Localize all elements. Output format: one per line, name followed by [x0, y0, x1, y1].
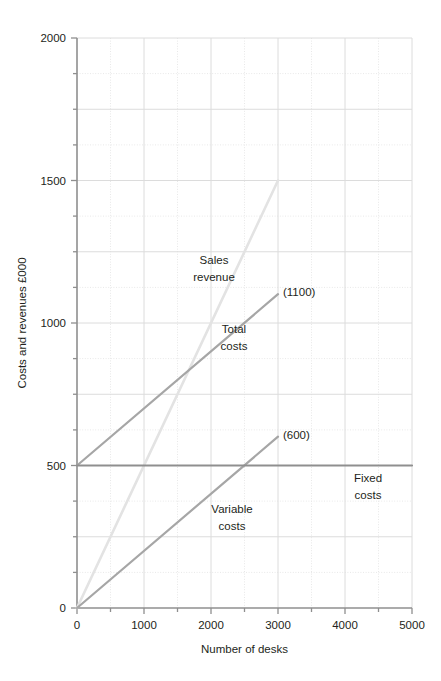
breakeven-chart: 0 500 1000 1500 2000 0 1000 2000 3000 40…: [0, 0, 441, 681]
series-line-total-costs: [77, 294, 278, 465]
series-label-fixed-costs: Fixed costs: [354, 472, 382, 501]
sales-revenue-label-line2: revenue: [193, 271, 235, 283]
variable-costs-label-line1: Variable: [211, 503, 252, 515]
x-tick-label-4000: 4000: [332, 619, 358, 631]
y-axis-title: Costs and revenues £000: [16, 257, 28, 388]
series-label-sales-revenue: Sales revenue: [193, 254, 235, 283]
y-tick-label-1500: 1500: [40, 175, 66, 187]
y-tick-label-1000: 1000: [40, 317, 66, 329]
x-tick-label-0: 0: [74, 619, 80, 631]
annotation-variable-costs-600: (600): [283, 429, 310, 441]
x-tick-label-1000: 1000: [131, 619, 157, 631]
fixed-costs-label-line2: costs: [355, 489, 382, 501]
series-label-variable-costs: Variable costs: [211, 503, 252, 532]
x-axis-ticks: [77, 608, 412, 614]
sales-revenue-label-line1: Sales: [200, 254, 229, 266]
y-tick-label-500: 500: [47, 460, 66, 472]
y-tick-label-2000: 2000: [40, 32, 66, 44]
fixed-costs-label-line1: Fixed: [354, 472, 382, 484]
x-tick-label-5000: 5000: [399, 619, 425, 631]
y-tick-label-0: 0: [60, 602, 66, 614]
annotation-total-costs-1100: (1100): [283, 286, 316, 298]
chart-svg: 0 500 1000 1500 2000 0 1000 2000 3000 40…: [0, 0, 441, 681]
y-axis-ticks: [71, 38, 77, 608]
variable-costs-label-line2: costs: [219, 520, 246, 532]
series-label-total-costs: Total costs: [221, 323, 248, 352]
x-tick-label-3000: 3000: [265, 619, 291, 631]
x-axis-title: Number of desks: [201, 643, 288, 655]
total-costs-label-line2: costs: [221, 340, 248, 352]
total-costs-label-line1: Total: [222, 323, 246, 335]
x-tick-label-2000: 2000: [198, 619, 224, 631]
